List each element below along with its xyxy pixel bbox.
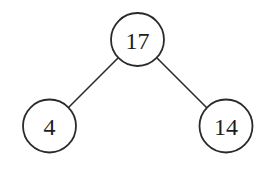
node-root: 17 bbox=[111, 13, 164, 66]
edge-root-right bbox=[157, 58, 207, 108]
node-right: 14 bbox=[200, 100, 253, 153]
node-left: 4 bbox=[23, 100, 76, 153]
node-left-label: 4 bbox=[44, 114, 56, 140]
node-root-label: 17 bbox=[126, 28, 150, 54]
tree-diagram: 17 4 14 bbox=[0, 0, 265, 170]
edge-root-left bbox=[68, 58, 118, 108]
node-right-label: 14 bbox=[214, 114, 238, 140]
nodes: 17 4 14 bbox=[23, 13, 253, 153]
